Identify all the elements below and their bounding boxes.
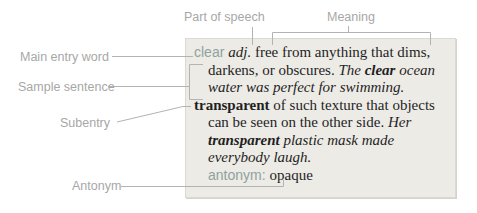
entry-segment-sample: The <box>338 62 364 78</box>
entry-text: clear adj. free from anything that dims,… <box>194 44 452 184</box>
entry-segment-sample-word: clear <box>365 62 396 78</box>
subentry-connector <box>117 107 191 123</box>
callout-main-entry-word: Main entry word <box>20 50 109 64</box>
entry-segment-def: can be seen on the other side. <box>208 114 388 130</box>
entry-segment-antonym-word: opaque <box>269 167 312 183</box>
callout-sample-sentence: Sample sentence <box>18 80 115 94</box>
entry-line: everybody laugh. <box>194 149 452 167</box>
dictionary-entry-diagram: clear adj. free from anything that dims,… <box>0 0 477 213</box>
entry-line: transparent plastic mask made <box>194 132 452 150</box>
entry-segment-pos: adj. <box>228 44 255 60</box>
entry-segment-def: darkens, or obscures. <box>208 62 338 78</box>
entry-line: clear adj. free from anything that dims, <box>194 44 452 62</box>
entry-line: can be seen on the other side. Her <box>194 114 452 132</box>
entry-segment-sample-word: transparent <box>208 132 283 148</box>
entry-segment-subentry-word: transparent <box>194 97 273 113</box>
entry-line: antonym: opaque <box>194 167 452 185</box>
entry-segment-sample: water was perfect for swimming. <box>208 79 404 95</box>
callout-subentry: Subentry <box>60 116 110 130</box>
entry-segment-antonym-label: antonym: <box>208 167 269 183</box>
entry-line: darkens, or obscures. The clear ocean <box>194 62 452 80</box>
entry-line: transparent of such texture that objects <box>194 97 452 115</box>
entry-segment-sample: Her <box>388 114 411 130</box>
entry-segment-def: of such texture that objects <box>273 97 435 113</box>
entry-line: water was perfect for swimming. <box>194 79 452 97</box>
entry-segment-sample: ocean <box>395 62 435 78</box>
entry-segment-def: free from anything that dims, <box>255 44 430 60</box>
entry-segment-sample: plastic mask made <box>283 132 394 148</box>
callout-antonym: Antonym <box>72 179 121 193</box>
callout-part-of-speech: Part of speech <box>184 10 265 24</box>
callout-meaning: Meaning <box>327 10 375 24</box>
entry-segment-sample: everybody laugh. <box>208 149 311 165</box>
entry-segment-entry-word: clear <box>194 44 228 60</box>
